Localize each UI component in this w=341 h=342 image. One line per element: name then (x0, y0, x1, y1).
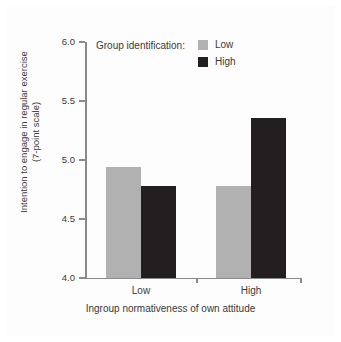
y-axis-title-line-2: (7-point scale) (30, 32, 42, 232)
y-axis-tick-label-wrap: 6.0 (48, 37, 75, 47)
y-axis-title-line-1: Intention to engage in regular exercise (18, 32, 30, 232)
y-axis-title: Intention to engage in regular exercise … (18, 32, 42, 232)
y-axis-tick-label-wrap: 5.0 (48, 155, 75, 165)
bar-low-high (141, 186, 176, 278)
x-axis-tick-label: High (211, 285, 291, 296)
y-axis-tick-label: 5.5 (51, 96, 75, 106)
y-axis-tick (79, 218, 85, 220)
x-axis-tick (300, 278, 302, 283)
y-axis-tick (79, 277, 85, 279)
bar-high-low (216, 186, 251, 278)
x-axis-tick-label: Low (101, 285, 181, 296)
y-axis-tick-label: 4.5 (51, 214, 75, 224)
legend-title: Group identification: (96, 40, 185, 51)
legend-swatch-high-icon (198, 57, 208, 67)
y-axis-tick-label: 4.0 (51, 273, 75, 283)
y-axis-tick-label: 6.0 (51, 37, 75, 47)
x-axis-tick (196, 278, 198, 283)
legend-label-low: Low (215, 40, 233, 50)
y-axis-tick-label-wrap: 4.5 (48, 214, 75, 224)
legend-item-low: Low (198, 40, 233, 50)
legend-swatch-low-icon (198, 40, 208, 50)
legend-label-high: High (215, 57, 236, 67)
y-axis-tick-label: 5.0 (51, 155, 75, 165)
legend-item-high: High (198, 57, 236, 67)
bar-high-high (251, 118, 286, 278)
y-axis-tick-label-wrap: 4.0 (48, 273, 75, 283)
bar-chart-figure: Intention to engage in regular exercise … (0, 0, 341, 342)
bar-low-low (106, 167, 141, 278)
y-axis-tick-label-wrap: 5.5 (48, 96, 75, 106)
y-axis-tick (79, 100, 85, 102)
y-axis-tick (79, 41, 85, 43)
plot-area (86, 42, 300, 278)
y-axis-tick (79, 159, 85, 161)
x-axis-title: Ingroup normativeness of own attitude (0, 303, 341, 314)
